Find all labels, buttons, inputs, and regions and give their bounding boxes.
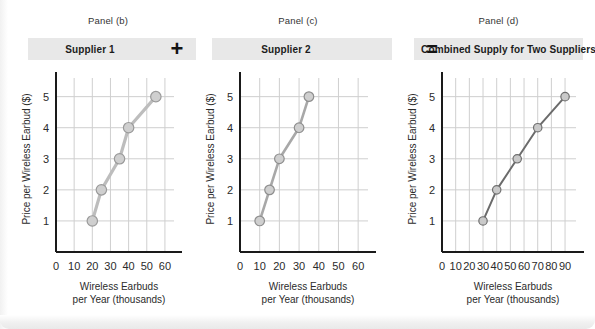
- data-point-marker: [255, 216, 265, 226]
- y-tick-label: 3: [227, 153, 233, 165]
- panel-c-plot: 123450102030405060Wireless Earbudsper Ye…: [196, 72, 392, 315]
- x-axis-title-line1: Wireless Earbuds: [474, 281, 552, 292]
- x-tick-label: 10: [450, 260, 462, 272]
- panel-row: Panel (b) Supplier 1 + 12345010203040506…: [0, 0, 595, 315]
- y-tick-label: 4: [429, 122, 435, 134]
- x-axis-title-line2: per Year (thousands): [262, 294, 355, 305]
- data-point-marker: [479, 217, 487, 225]
- data-point-marker: [123, 123, 133, 133]
- panel-supplier-2: Panel (c) Supplier 2 123450102030405060W…: [196, 0, 392, 315]
- panel-b-tag: Panel (b): [0, 15, 196, 26]
- x-tick-label: 10: [254, 260, 266, 272]
- x-tick-label: 50: [332, 260, 344, 272]
- plus-operator-icon: +: [166, 38, 188, 60]
- y-axis-title: Price per Wireless Earbud ($): [21, 93, 32, 224]
- panel-d-plot: 123450102030405060708090Wireless Earbuds…: [392, 72, 595, 315]
- x-tick-label: 90: [559, 260, 571, 272]
- y-tick-label: 5: [429, 91, 435, 103]
- panel-b-title: Supplier 1: [65, 44, 114, 55]
- x-tick-label: 50: [141, 260, 153, 272]
- data-point-marker: [534, 124, 542, 132]
- x-tick-label: 10: [68, 260, 80, 272]
- data-point-marker: [492, 186, 500, 194]
- x-axis-title-line1: Wireless Earbuds: [80, 281, 158, 292]
- data-point-marker: [294, 123, 304, 133]
- x-axis-title-line2: per Year (thousands): [73, 294, 166, 305]
- x-axis-title-line2: per Year (thousands): [467, 294, 560, 305]
- y-tick-label: 1: [429, 215, 435, 227]
- x-origin-label: 0: [237, 260, 243, 272]
- y-tick-label: 2: [227, 184, 233, 196]
- data-point-marker: [304, 92, 314, 102]
- x-tick-label: 70: [532, 260, 544, 272]
- data-point-marker: [114, 154, 124, 164]
- y-tick-label: 3: [43, 153, 49, 165]
- x-origin-label: 0: [439, 260, 445, 272]
- data-point-marker: [151, 91, 161, 101]
- panel-c-tag: Panel (c): [196, 15, 392, 26]
- data-point-marker: [561, 92, 569, 100]
- y-axis-title: Price per Wireless Earbud ($): [205, 93, 216, 224]
- y-tick-label: 1: [43, 215, 49, 227]
- page-bottom-shading: [0, 315, 595, 329]
- y-tick-label: 4: [43, 122, 49, 134]
- y-tick-label: 1: [227, 215, 233, 227]
- x-tick-label: 30: [104, 260, 116, 272]
- x-tick-label: 30: [477, 260, 489, 272]
- y-tick-label: 2: [429, 184, 435, 196]
- x-tick-label: 20: [463, 260, 475, 272]
- data-point-marker: [275, 154, 285, 164]
- y-axis-title: Price per Wireless Earbud ($): [407, 93, 418, 224]
- y-tick-label: 5: [227, 91, 233, 103]
- x-tick-label: 30: [293, 260, 305, 272]
- x-tick-label: 40: [122, 260, 134, 272]
- supply-curve-figure: Panel (b) Supplier 1 + 12345010203040506…: [0, 0, 595, 329]
- x-tick-label: 60: [159, 260, 171, 272]
- y-tick-label: 2: [43, 184, 49, 196]
- panel-c-title: Supplier 2: [261, 44, 310, 55]
- data-point-marker: [96, 185, 106, 195]
- x-tick-label: 40: [313, 260, 325, 272]
- panel-d-tag: Panel (d): [392, 15, 595, 26]
- x-tick-label: 20: [273, 260, 285, 272]
- data-point-marker: [513, 155, 521, 163]
- data-point-marker: [265, 185, 275, 195]
- panel-b-plot: 123450102030405060Wireless Earbudsper Ye…: [0, 72, 196, 315]
- x-tick-label: 60: [352, 260, 364, 272]
- panel-c-header-bar: Supplier 2: [212, 38, 392, 60]
- panel-supplier-1: Panel (b) Supplier 1 + 12345010203040506…: [0, 0, 196, 315]
- y-tick-label: 3: [429, 153, 435, 165]
- x-tick-label: 50: [504, 260, 516, 272]
- y-tick-label: 5: [43, 91, 49, 103]
- y-tick-label: 4: [227, 122, 233, 134]
- panel-d-title: Combined Supply for Two Suppliers: [421, 44, 595, 55]
- x-tick-label: 60: [518, 260, 530, 272]
- x-tick-label: 20: [86, 260, 98, 272]
- equals-operator-icon: =: [420, 38, 444, 60]
- x-origin-label: 0: [53, 260, 59, 272]
- x-tick-label: 80: [545, 260, 557, 272]
- data-point-marker: [87, 216, 97, 226]
- x-tick-label: 40: [491, 260, 503, 272]
- x-axis-title-line1: Wireless Earbuds: [269, 281, 347, 292]
- panel-combined-supply: Panel (d) = Combined Supply for Two Supp…: [392, 0, 595, 315]
